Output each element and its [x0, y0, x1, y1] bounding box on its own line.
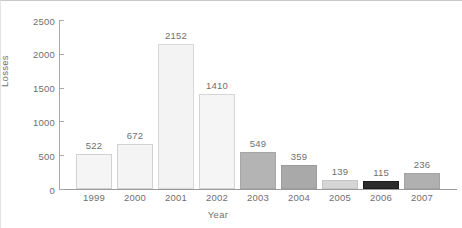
y-axis-tick-label: 1000	[33, 116, 55, 127]
y-axis-tick-label: 0	[50, 184, 55, 195]
x-axis-tick-label: 2007	[394, 192, 450, 203]
y-axis-tick-label: 1500	[33, 83, 55, 94]
y-axis-tick-label: 2000	[33, 49, 55, 60]
x-axis-title: Year	[1, 209, 462, 220]
y-axis-title: Losses	[0, 55, 10, 87]
y-axis-tick-label: 2500	[33, 15, 55, 26]
x-axis-title-text: Year	[208, 209, 228, 220]
x-axis-tick-labels: 199920002001200220032004200520062007	[59, 1, 457, 228]
y-axis-tick-label: 500	[39, 150, 55, 161]
bar-chart-figure: Losses 05001000150020002500 522672215214…	[0, 0, 462, 228]
